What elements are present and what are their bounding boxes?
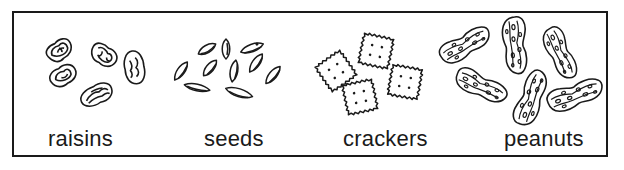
cracker-icon bbox=[386, 63, 423, 100]
panel-crackers: crackers bbox=[300, 0, 440, 170]
seed-icon bbox=[222, 39, 230, 59]
panel-raisins: raisins bbox=[0, 0, 160, 170]
label-seeds: seeds bbox=[204, 126, 264, 152]
peanut-icon bbox=[545, 74, 606, 115]
seed-icon bbox=[172, 60, 191, 82]
seed-icon bbox=[201, 58, 220, 78]
seed-icon bbox=[196, 41, 217, 57]
raisin-icon bbox=[78, 80, 116, 110]
seed-icon bbox=[239, 40, 264, 55]
cracker-icon bbox=[341, 78, 379, 116]
crackers-illustration bbox=[300, 0, 440, 130]
panel-peanuts: peanuts bbox=[430, 0, 624, 170]
raisins-illustration bbox=[0, 0, 160, 130]
seed-icon bbox=[263, 64, 283, 86]
raisin-icon bbox=[88, 40, 121, 70]
peanut-icon bbox=[539, 24, 582, 82]
peanut-icon bbox=[436, 22, 494, 68]
raisin-icon bbox=[47, 61, 80, 90]
label-crackers: crackers bbox=[343, 126, 428, 152]
label-peanuts: peanuts bbox=[504, 126, 584, 152]
seed-icon bbox=[225, 85, 254, 100]
peanut-icon bbox=[510, 67, 551, 128]
seed-icon bbox=[184, 82, 211, 93]
seed-icon bbox=[247, 52, 266, 74]
cracker-icon bbox=[357, 32, 395, 70]
panel-seeds: seeds bbox=[160, 0, 310, 170]
raisin-icon bbox=[44, 36, 76, 66]
peanut-icon bbox=[452, 65, 510, 108]
peanut-icon bbox=[501, 16, 529, 75]
seeds-illustration bbox=[160, 0, 310, 130]
label-raisins: raisins bbox=[48, 126, 113, 152]
raisin-icon bbox=[122, 49, 147, 85]
peanuts-illustration bbox=[430, 0, 624, 130]
seed-icon bbox=[228, 60, 239, 83]
